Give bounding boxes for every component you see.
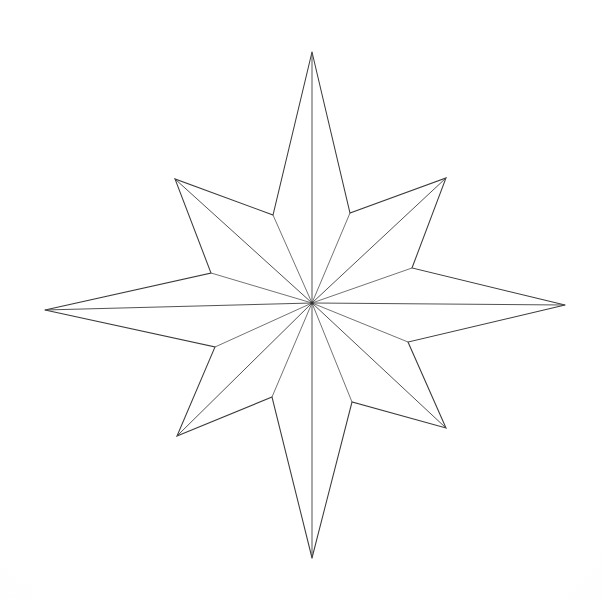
drawing-canvas: Hand-drawn outline of an eight-pointed c…	[0, 0, 602, 599]
star-body-fill	[45, 52, 565, 558]
center-point	[310, 301, 313, 304]
eight-pointed-star-figure	[0, 0, 602, 599]
